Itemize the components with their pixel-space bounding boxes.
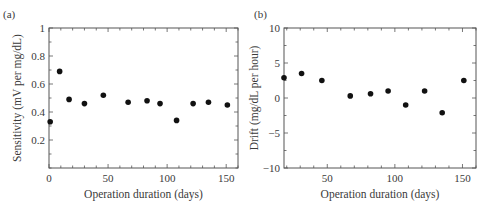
y-tick-label: −10 — [263, 162, 281, 174]
data-point — [299, 71, 305, 77]
y-tick-label: −5 — [268, 127, 280, 139]
data-points-b — [281, 71, 466, 116]
data-point — [125, 99, 131, 105]
data-point — [422, 88, 428, 94]
y-tick-label: 0 — [275, 92, 281, 104]
data-point — [347, 93, 353, 99]
x-tick-label: 100 — [159, 172, 176, 184]
data-point — [206, 99, 212, 105]
x-tick-label: 150 — [218, 172, 235, 184]
figure: (a) Sensitivity (mV per mg/dL) Operation… — [0, 0, 490, 209]
y-tick-label: 0.6 — [31, 78, 45, 90]
data-points-a — [47, 69, 230, 125]
data-point — [439, 110, 445, 116]
panel-b-drift: (b) Drift (mg/dL per hour) Operation dur… — [248, 8, 476, 201]
y-tick-label: 0.8 — [31, 50, 45, 62]
x-tick-label: 100 — [387, 172, 404, 184]
panel-label-a: (a) — [3, 8, 16, 21]
data-point — [403, 102, 409, 108]
data-point — [57, 69, 63, 75]
x-tick-label: 150 — [454, 172, 471, 184]
x-tick-label: 0 — [46, 172, 52, 184]
data-point — [144, 98, 150, 104]
data-point — [319, 78, 325, 84]
data-point — [461, 78, 467, 84]
axis-ticks-b: 50100150−10−50510 — [263, 22, 476, 184]
data-point — [82, 101, 88, 107]
x-tick-label: 50 — [103, 172, 115, 184]
data-point — [190, 101, 196, 107]
x-tick-label: 50 — [322, 172, 334, 184]
panel-label-b: (b) — [254, 8, 267, 21]
data-point — [174, 118, 180, 124]
y-tick-label: 10 — [269, 22, 281, 34]
y-axis-label-a: Sensitivity (mV per mg/dL) — [11, 34, 24, 162]
data-point — [225, 102, 231, 108]
y-tick-label: 1 — [40, 22, 46, 34]
y-tick-label: 5 — [275, 57, 281, 69]
plot-frame-b — [284, 28, 476, 168]
data-point — [368, 91, 374, 97]
y-tick-label: 0.4 — [31, 106, 45, 118]
plot-frame-a — [49, 28, 238, 168]
panel-a-sensitivity: (a) Sensitivity (mV per mg/dL) Operation… — [3, 8, 238, 201]
data-point — [47, 119, 53, 125]
data-point — [157, 101, 163, 107]
data-point — [101, 92, 107, 98]
y-axis-label-b: Drift (mg/dL per hour) — [248, 46, 261, 151]
data-point — [281, 75, 287, 81]
y-tick-label: 0.2 — [31, 134, 45, 146]
x-axis-label-b: Operation duration (days) — [321, 188, 440, 201]
data-point — [385, 88, 391, 94]
x-axis-label-a: Operation duration (days) — [84, 188, 203, 201]
data-point — [66, 97, 72, 103]
